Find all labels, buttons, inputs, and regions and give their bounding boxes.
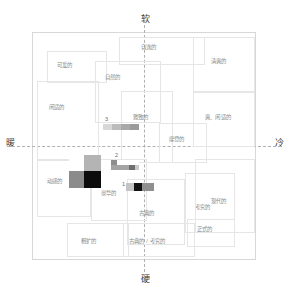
- region-cell: [37, 81, 99, 161]
- swatch-group[interactable]: 3: [103, 124, 139, 130]
- region-label: 自然的: [105, 75, 121, 80]
- swatch-group[interactable]: [69, 155, 101, 188]
- swatch-row: [126, 183, 154, 191]
- swatch-row: [103, 124, 139, 130]
- region-label: 摩登的: [169, 137, 185, 142]
- color-swatch[interactable]: [84, 171, 101, 188]
- region-label: 豪华的: [101, 191, 117, 196]
- color-swatch[interactable]: [69, 171, 84, 188]
- swatch-row: [111, 165, 139, 170]
- region-label: 现代的: [211, 199, 227, 204]
- region-label: 清爽的: [211, 59, 227, 64]
- swatch-row: [69, 171, 101, 188]
- swatch-group[interactable]: 1: [126, 183, 154, 191]
- region-label: 雅致的: [133, 115, 149, 120]
- color-swatch[interactable]: [135, 165, 139, 170]
- axis-label-hard: 硬: [0, 275, 290, 284]
- color-swatch[interactable]: [112, 124, 121, 130]
- color-swatch[interactable]: [142, 183, 154, 191]
- color-swatch[interactable]: [126, 183, 134, 191]
- region-cell: [67, 223, 129, 257]
- region-label: 闲适的: [49, 105, 65, 110]
- color-image-scale: 软 硬 暖 冷 可爱的自然的自逸的清爽的闲适的雅致的爽、闲适的摩登的动感的豪华的…: [0, 0, 290, 292]
- region-label: 粗犷的: [81, 239, 97, 244]
- color-swatch[interactable]: [84, 155, 101, 171]
- region-label: 动感的: [47, 179, 63, 184]
- plot-area: 可爱的自然的自逸的清爽的闲适的雅致的爽、闲适的摩登的动感的豪华的古典的考究的现代…: [32, 32, 256, 260]
- color-swatch[interactable]: [69, 155, 84, 171]
- region-label: 正式的: [197, 227, 213, 232]
- swatch-row: [69, 155, 101, 171]
- swatch-group-number: 1: [122, 182, 125, 188]
- color-swatch[interactable]: [103, 124, 112, 130]
- region-label: 自逸的: [141, 45, 157, 50]
- axis-label-soft: 软: [0, 15, 290, 24]
- color-swatch[interactable]: [130, 124, 139, 130]
- color-swatch[interactable]: [134, 183, 142, 191]
- swatch-group-number: 2: [115, 153, 118, 159]
- region-label: 古典的: [139, 211, 155, 216]
- color-swatch[interactable]: [111, 165, 129, 170]
- region-label: 可爱的: [57, 63, 73, 68]
- region-label: 爽、闲适的: [205, 115, 231, 120]
- swatch-group[interactable]: 2: [111, 160, 139, 170]
- region-cell: [193, 37, 255, 93]
- region-cell: [159, 123, 207, 163]
- region-label: 古典的 / 考究的: [129, 239, 165, 244]
- swatch-group-number: 3: [105, 117, 108, 123]
- color-swatch[interactable]: [121, 124, 130, 130]
